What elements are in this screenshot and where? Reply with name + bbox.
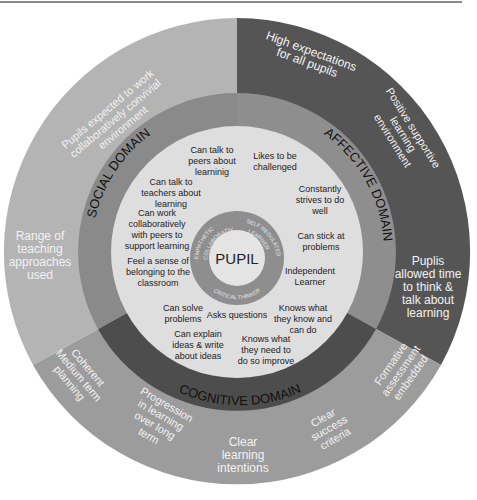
attr-explain-ideas: Can explainideas & writeabout ideas bbox=[172, 329, 224, 361]
pupil-domain-diagram: PUPIL EMPATHETIC COLLABORATIVE SELF REGU… bbox=[0, 0, 477, 500]
attr-need-to-improve: Knows whatthey need todo so improve bbox=[238, 334, 295, 366]
attr-asks-questions: Asks questions bbox=[207, 310, 268, 320]
pupil-label: PUPIL bbox=[215, 250, 258, 267]
attr-stick-at-problems: Can stick atproblems bbox=[297, 231, 345, 252]
attr-likes-challenge: Likes to bechallenged bbox=[253, 151, 297, 172]
attr-solve-problems: Can solveproblems bbox=[163, 303, 203, 324]
